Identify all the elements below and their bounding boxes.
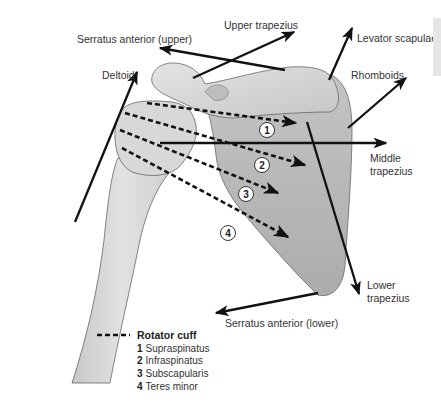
marker-2: 2 [255, 158, 270, 173]
label-middle-trapezius-1: Middle [370, 152, 401, 164]
serratus-lower-arrow [216, 293, 318, 313]
marker-3: 3 [239, 187, 254, 202]
marker-4: 4 [221, 226, 236, 241]
page-edge-tab [433, 18, 441, 76]
label-deltoid: Deltoid [102, 69, 135, 81]
rhomboids-arrow [348, 78, 406, 128]
label-lower-trapezius-1: Lower [367, 279, 396, 291]
label-serratus-lower: Serratus anterior (lower) [225, 317, 338, 329]
svg-text:1: 1 [264, 125, 270, 136]
legend-title: Rotator cuff [137, 329, 197, 341]
humeral-head [115, 101, 196, 176]
svg-text:2: 2 [259, 160, 265, 171]
label-lower-trapezius-2: trapezius [367, 292, 410, 304]
label-serratus-upper: Serratus anterior (upper) [77, 33, 192, 45]
label-levator-scapulae: Levator scapulae [357, 32, 437, 44]
levator-scapulae-arrow [329, 28, 352, 80]
shoulder-muscle-diagram: 1 2 3 4 Serratus anterior (upper) Upper … [0, 0, 441, 413]
legend-item: 1Supraspinatus [137, 343, 210, 354]
svg-text:3: 3 [243, 189, 249, 200]
legend-item: 2Infraspinatus [137, 355, 203, 366]
legend-item: 3Subscapularis [137, 368, 208, 379]
svg-text:4: 4 [225, 228, 231, 239]
legend-item: 4Teres minor [137, 381, 198, 392]
label-middle-trapezius-2: trapezius [370, 165, 413, 177]
label-rhomboids: Rhomboids [351, 69, 404, 81]
label-upper-trapezius: Upper trapezius [224, 19, 298, 31]
marker-1: 1 [260, 123, 275, 138]
